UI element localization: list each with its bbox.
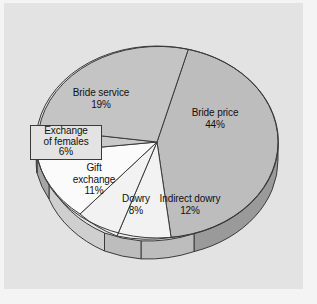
slice-label-bride-service-value: 19%	[56, 99, 146, 111]
slice-label-bride-service-name: Bride service	[56, 87, 146, 99]
chart-panel: Bride price 44% Bride service 19% Exchan…	[4, 3, 303, 289]
pie-chart: Bride price 44% Bride service 19% Exchan…	[4, 3, 303, 289]
slice-label-exchange-of-females-value: 6%	[33, 147, 99, 158]
slice-label-bride-service: Bride service 19%	[56, 87, 146, 110]
slice-label-bride-price: Bride price 44%	[176, 107, 254, 130]
figure-canvas: Bride price 44% Bride service 19% Exchan…	[0, 0, 317, 304]
slice-label-bride-price-name: Bride price	[176, 107, 254, 119]
slice-label-indirect-dowry-name: Indirect dowry	[150, 193, 230, 205]
slice-label-exchange-of-females-line1: Exchange	[33, 126, 99, 137]
slice-label-gift-exchange: Gift exchange 11%	[58, 162, 130, 197]
slice-label-gift-exchange-line1: Gift	[58, 162, 130, 174]
slice-label-gift-exchange-line2: exchange	[58, 174, 130, 186]
slice-label-bride-price-value: 44%	[176, 119, 254, 131]
slice-label-exchange-of-females: Exchange of females 6%	[30, 125, 102, 160]
slice-label-indirect-dowry-value: 12%	[150, 205, 230, 217]
slice-label-indirect-dowry: Indirect dowry 12%	[150, 193, 230, 216]
